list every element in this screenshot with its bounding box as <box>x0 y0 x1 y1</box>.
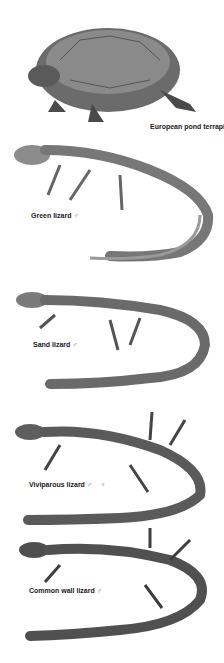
caption-european-pond-terrapin: European pond terrapin <box>150 123 224 130</box>
caption-sand-lizard: Sand lizard♂ <box>33 341 78 348</box>
green-lizard-illustration <box>14 145 208 259</box>
male-symbol-icon: ♂ <box>97 587 102 594</box>
female-symbol-icon: ♀ <box>100 481 105 488</box>
male-symbol-icon: ♂ <box>73 212 78 219</box>
illustrations <box>0 0 224 663</box>
caption-green-lizard: Green lizard♂ <box>31 212 79 219</box>
reptile-illustration-plate: European pond terrapin Green lizard♂ San… <box>0 0 224 663</box>
viviparous-lizard-illustration <box>15 412 201 520</box>
caption-common-wall-lizard: Common wall lizard♂ <box>29 587 102 594</box>
caption-text: Common wall lizard <box>29 587 95 594</box>
caption-text: Viviparous lizard <box>29 481 85 488</box>
sand-lizard-illustration <box>16 292 205 384</box>
wall-lizard-illustration <box>19 528 202 636</box>
caption-text: Green lizard <box>31 212 71 219</box>
caption-text: Sand lizard <box>33 341 70 348</box>
male-symbol-icon: ♂ <box>72 341 77 348</box>
terrapin-illustration <box>28 28 196 122</box>
male-symbol-icon: ♂ <box>87 481 92 488</box>
caption-text: European pond terrapin <box>150 123 224 130</box>
caption-viviparous-lizard: Viviparous lizard♂♀ <box>29 481 105 488</box>
